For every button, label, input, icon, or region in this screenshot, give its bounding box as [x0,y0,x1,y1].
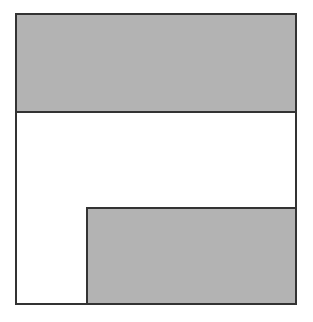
shaded-bottom-right-rectangle [86,207,297,305]
shaded-top-band [15,13,297,113]
